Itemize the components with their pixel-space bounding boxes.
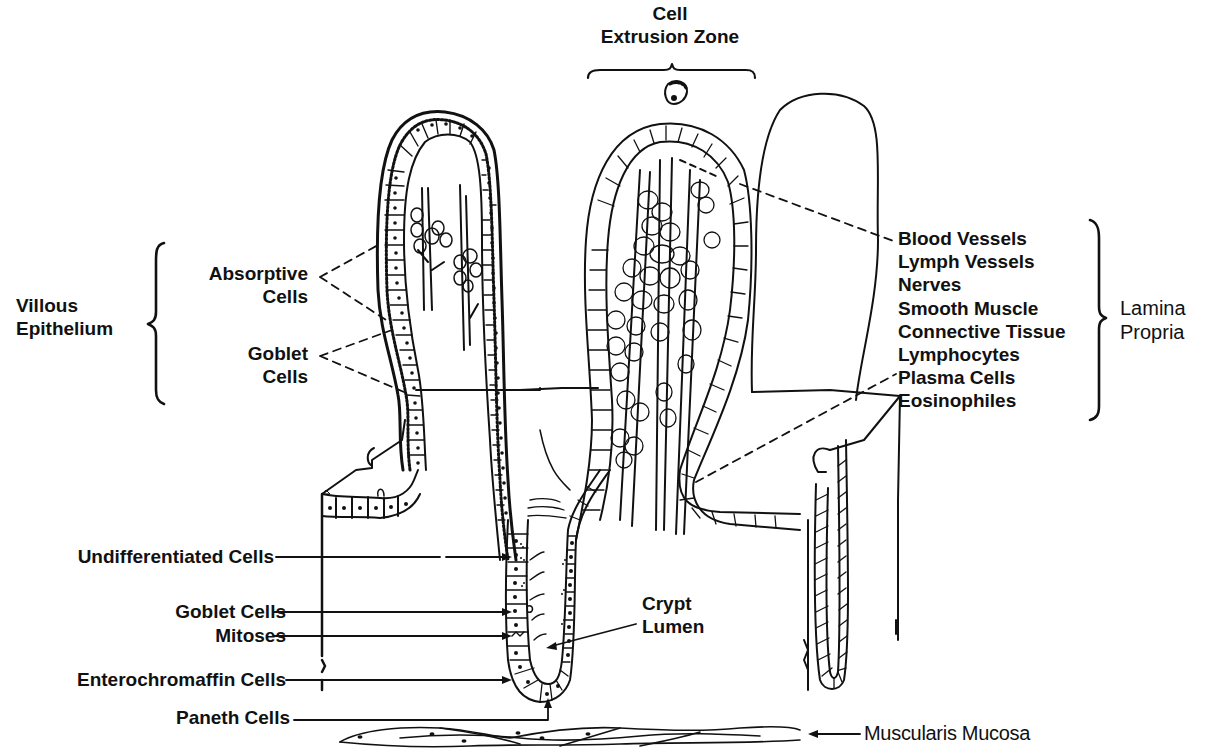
component-smooth-muscle: Smooth Muscle [898, 297, 1066, 320]
villous-brace [148, 243, 164, 404]
muscularis-mucosa-layer [340, 727, 800, 747]
center-villus [576, 123, 800, 540]
component-eosinophiles: Eosinophiles [898, 389, 1066, 412]
left-villus [377, 112, 516, 560]
component-plasma-cells: Plasma Cells [898, 366, 1066, 389]
label-absorptive-cells-word: Cells [190, 285, 308, 308]
label-undifferentiated-cells: Undifferentiated Cells [0, 545, 274, 568]
lamina-propria-components-list: Blood Vessels Lymph Vessels Nerves Smoot… [898, 227, 1066, 413]
label-crypt-lumen: Crypt Lumen [642, 592, 704, 638]
label-enterochromaffin-cells: Enterochromaffin Cells [0, 668, 286, 691]
label-cell: Cell [600, 2, 740, 25]
diagram-stage: Cell Extrusion Zone Villous Epithelium A… [0, 0, 1212, 754]
label-propria: Propria [1120, 320, 1186, 344]
label-paneth-cells: Paneth Cells [0, 706, 290, 729]
label-absorptive: Absorptive [190, 262, 308, 285]
label-extrusion-zone: Extrusion Zone [600, 25, 740, 48]
component-lymph-vessels: Lymph Vessels [898, 250, 1066, 273]
label-lumen: Lumen [642, 615, 704, 638]
label-lamina: Lamina [1120, 296, 1186, 320]
label-villous: Villous [16, 294, 113, 317]
label-goblet-cells-villus: Goblet Cells [190, 342, 308, 388]
component-nerves: Nerves [898, 273, 1066, 296]
label-goblet-cells-word: Cells [190, 365, 308, 388]
arrowheads [502, 553, 818, 738]
label-villous-epithelium: Villous Epithelium [16, 294, 113, 340]
extruded-cell [665, 81, 687, 104]
label-crypt: Crypt [642, 592, 704, 615]
label-mitoses: Mitoses [0, 624, 286, 647]
label-epithelium: Epithelium [16, 317, 113, 340]
label-lamina-propria: Lamina Propria [1120, 296, 1186, 344]
lamina-brace [1090, 220, 1106, 420]
label-goblet-cells-crypt: Goblet Cells [0, 600, 286, 623]
component-lymphocytes: Lymphocytes [898, 343, 1066, 366]
extrusion-brace [588, 64, 755, 78]
label-muscularis-mucosa: Muscularis Mucosa [864, 722, 1030, 745]
component-blood-vessels: Blood Vessels [898, 227, 1066, 250]
right-villus-block [752, 94, 900, 690]
label-goblet: Goblet [190, 342, 308, 365]
label-cell-extrusion-zone: Cell Extrusion Zone [600, 2, 740, 48]
crypt [506, 470, 610, 702]
component-connective-tissue: Connective Tissue [898, 320, 1066, 343]
label-absorptive-cells: Absorptive Cells [190, 262, 308, 308]
